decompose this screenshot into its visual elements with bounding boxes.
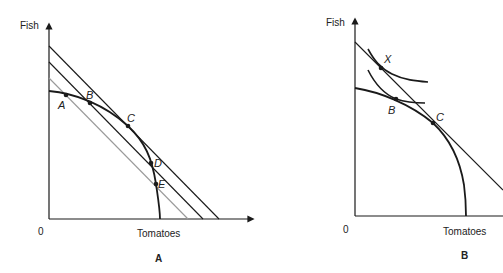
panel-b-indifference-curve-upper (368, 49, 428, 82)
panel-b-point-c-dot (431, 121, 436, 126)
panel-b-y-axis-label: Fish (326, 17, 345, 28)
panel-b-ppf-curve (355, 88, 466, 216)
panel-a-caption: A (155, 253, 162, 264)
panel-b-point-b-dot (394, 97, 399, 102)
panel-a-point-d-dot (149, 161, 154, 166)
panel-b-point-x-dot (379, 66, 384, 71)
panel-a-point-e-label: E (158, 178, 166, 190)
panel-b-x-axis-label: Tomatoes (443, 226, 486, 237)
panel-a-point-a-label: A (57, 99, 65, 111)
panel-a-price-line-inner (49, 78, 188, 219)
panel-b-point-x-label: X (383, 53, 392, 65)
panel-a: A B C D E Fish Tomatoes 0 A (20, 20, 251, 264)
panel-a-point-b-dot (88, 101, 93, 106)
panel-b: X B C Fish Tomatoes 0 B (326, 17, 503, 261)
panel-a-price-line-middle (49, 62, 203, 219)
panel-a-point-b-label: B (86, 89, 93, 101)
panel-b-point-c-label: C (436, 111, 444, 123)
panel-a-point-a-dot (64, 93, 69, 98)
panel-b-price-line (355, 42, 503, 190)
panel-a-y-axis-label: Fish (20, 20, 39, 31)
panel-a-origin-label: 0 (38, 226, 44, 237)
panel-a-ppf-curve (49, 91, 160, 219)
panel-b-caption: B (461, 250, 468, 261)
diagram-canvas: A B C D E Fish Tomatoes 0 A X B C Fish T… (0, 0, 503, 273)
panel-b-origin-label: 0 (343, 224, 349, 235)
panel-a-point-d-label: D (154, 157, 162, 169)
panel-b-point-b-label: B (388, 104, 395, 116)
panel-a-point-c-dot (126, 124, 131, 129)
panel-a-point-c-label: C (127, 112, 135, 124)
panel-a-x-axis-label: Tomatoes (137, 228, 180, 239)
